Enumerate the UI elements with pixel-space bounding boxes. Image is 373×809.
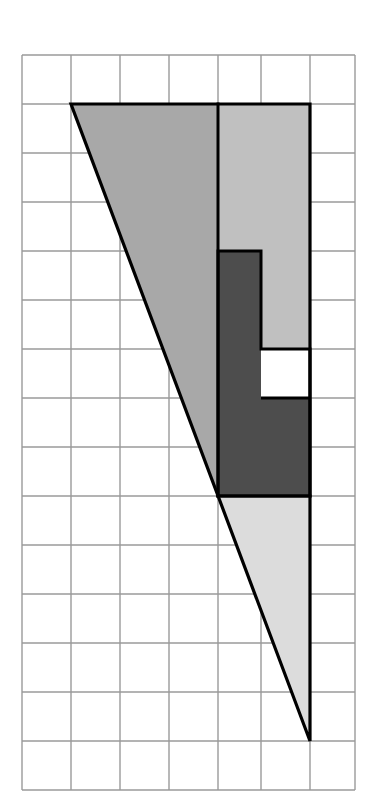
white-notch-cell xyxy=(261,349,310,398)
figure-root xyxy=(0,0,373,809)
grid-geometry-figure xyxy=(0,0,373,809)
